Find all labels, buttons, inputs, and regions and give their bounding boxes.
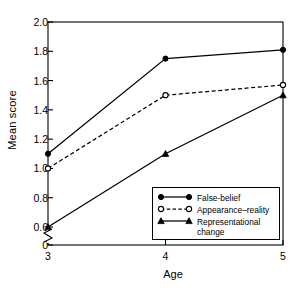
legend-item-false-belief: False-belief bbox=[197, 193, 240, 203]
legend-label: Appearance–reality bbox=[197, 205, 269, 215]
series-false-belief bbox=[45, 47, 285, 156]
y-tick-marks bbox=[48, 22, 53, 245]
axis-break-icon bbox=[44, 229, 52, 243]
legend-label: False-belief bbox=[197, 193, 240, 203]
legend-item-appearance-reality: Appearance–reality bbox=[197, 205, 269, 215]
x-tick-marks bbox=[48, 240, 283, 245]
plot-canvas bbox=[0, 0, 298, 294]
legend-label: Representational bbox=[197, 217, 260, 227]
chart-figure: Mean score 00.60.81.01.21.41.61.82.0 345… bbox=[0, 0, 298, 294]
legend: False-belief Appearance–reality Represen… bbox=[152, 187, 280, 240]
x-axis-title: Age bbox=[0, 268, 298, 280]
legend-label: change bbox=[197, 227, 224, 237]
legend-item-representational-change: Representational bbox=[197, 217, 260, 227]
legend-item-representational-change-line2: change bbox=[197, 227, 224, 237]
